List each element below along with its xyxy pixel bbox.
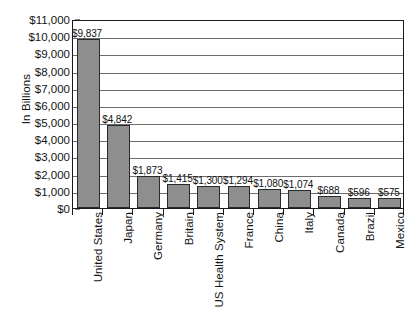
x-category-label: United States [92,212,104,282]
bar-value-label: $1,074 [283,179,313,190]
bar-chart: In Billions $0$1,000$2,000$3,000$4,000$5… [0,0,420,331]
bar [378,198,401,208]
bar-value-label: $1,415 [163,173,193,184]
bar [318,196,341,208]
y-tick-label: $8,000 [8,66,70,78]
bar-value-label: $688 [313,185,343,196]
bar [288,190,311,208]
y-tick-label: $9,000 [8,48,70,60]
bar [107,125,130,208]
y-tick-label: $10,000 [8,31,70,43]
y-tick-label: $5,000 [8,117,70,129]
bar-value-label: $1,300 [193,175,223,186]
x-category-label: Canada [334,212,346,253]
y-tick-label: $7,000 [8,83,70,95]
bar-value-label: $9,837 [72,28,102,39]
bar-value-label: $4,842 [102,114,132,125]
bar-value-label: $596 [344,187,374,198]
bar [348,198,371,208]
bar [258,189,281,208]
bar [197,186,220,208]
bar-value-label: $1,873 [132,165,162,176]
x-category-label: China [273,212,285,243]
y-tick-label: $0 [8,203,70,215]
x-category-label: Britain [183,212,195,245]
y-tick-label: $4,000 [8,134,70,146]
bar-value-label: $1,294 [223,175,253,186]
x-category-label: Brazil [364,212,376,241]
bar [228,186,251,208]
y-tick-label: $11,000 [8,14,70,26]
y-tick-label: $2,000 [8,169,70,181]
x-category-label: Mexico [394,212,406,249]
x-category-label: Japan [122,212,134,244]
bar [167,184,190,208]
x-category-label: Germany [152,212,164,260]
y-axis-tick-labels: $0$1,000$2,000$3,000$4,000$5,000$6,000$7… [8,0,70,331]
y-tick-label: $1,000 [8,186,70,198]
x-category-label: France [243,212,255,248]
x-category-label: Italy [303,212,315,234]
x-axis-category-labels: United StatesJapanGermanyBritainUS Healt… [72,212,404,331]
bar-value-label: $575 [374,187,404,198]
bar [137,176,160,208]
bar-value-label: $1,080 [253,178,283,189]
x-category-label: US Health System [213,212,225,308]
bar [77,39,100,208]
y-tick-label: $6,000 [8,100,70,112]
y-tick-label: $3,000 [8,151,70,163]
